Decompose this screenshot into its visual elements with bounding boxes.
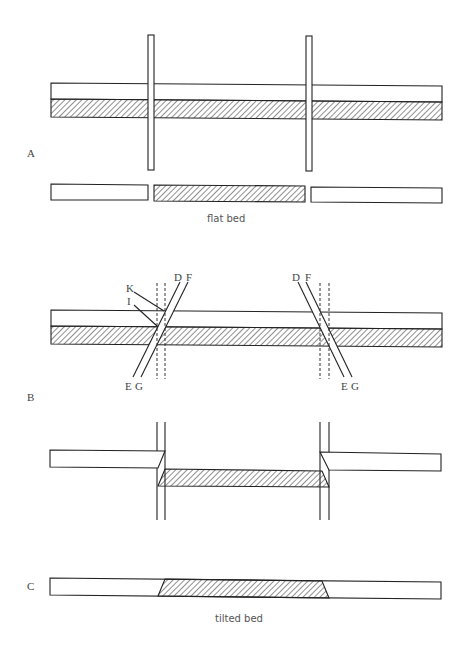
panel-a-piece-middle (154, 185, 305, 202)
label-f-right: F (305, 271, 311, 283)
panel-a-piece-right (311, 187, 442, 203)
dropped-hatched-block (158, 469, 329, 487)
panel-a-piece-left (51, 184, 148, 200)
label-d-left: D (174, 271, 182, 283)
panel-b-upper: K I D F E G D F E G B (27, 271, 442, 403)
panel-b-lower (50, 422, 441, 520)
label-g-left: G (135, 380, 143, 392)
panel-c-hatched-section (158, 579, 329, 598)
panel-a-hatched-layer (51, 99, 442, 120)
panel-c-label: C (27, 580, 34, 592)
panel-b-label: B (27, 391, 34, 403)
label-d-right: D (292, 271, 300, 283)
label-e-right: E (341, 380, 348, 392)
leader-line-k (134, 292, 164, 311)
left-block (50, 450, 165, 468)
panel-a: A flat bed (27, 35, 442, 224)
label-e-left: E (125, 380, 132, 392)
label-i: I (127, 295, 131, 307)
panel-a-label: A (27, 147, 35, 159)
label-f-left: F (186, 271, 192, 283)
geology-fault-diagram: A flat bed K I D F E G D F E G B (0, 0, 465, 648)
panel-a-cut-right (306, 36, 312, 171)
right-block (320, 452, 441, 471)
panel-a-caption: flat bed (207, 213, 245, 224)
panel-b-hatched-layer (51, 326, 442, 347)
panel-a-cut-left (148, 35, 154, 170)
panel-c-caption: tilted bed (215, 613, 263, 624)
label-g-right: G (351, 380, 359, 392)
label-k: K (126, 282, 134, 294)
panel-c: C tilted bed (27, 578, 441, 624)
